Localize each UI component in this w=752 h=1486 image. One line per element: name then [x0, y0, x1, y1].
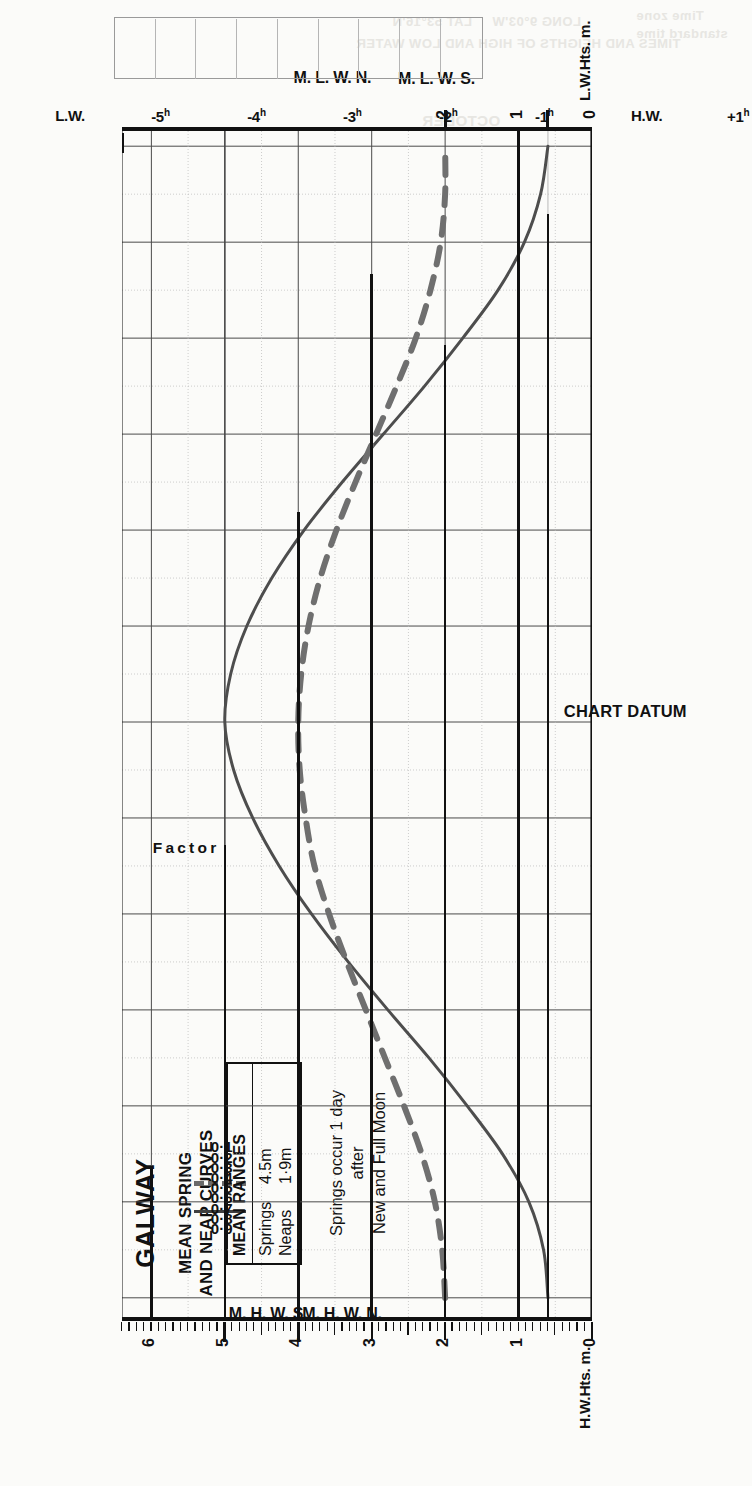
height-minor-tick — [532, 1322, 533, 1331]
height-tick-right: 1 — [508, 110, 526, 119]
height-minor-tick — [136, 1322, 137, 1331]
height-minor-tick — [584, 1322, 585, 1331]
hour-tick-label: L.W. — [55, 107, 85, 124]
right-axis-title: L.W.Hts. m. — [576, 21, 594, 101]
height-minor-tick — [319, 1322, 320, 1331]
height-minor-tick — [459, 1322, 460, 1331]
level-marker-rule — [224, 845, 227, 1321]
level-marker-tick — [444, 110, 447, 130]
height-minor-tick — [437, 1322, 438, 1331]
height-minor-tick — [261, 1322, 262, 1335]
height-minor-tick — [121, 1322, 122, 1331]
height-minor-tick — [547, 1322, 548, 1331]
height-minor-tick — [400, 1322, 401, 1331]
height-minor-tick — [488, 1322, 489, 1331]
plot-area — [122, 131, 592, 1321]
height-reference-rule — [150, 1166, 153, 1321]
height-minor-tick — [150, 1322, 151, 1331]
height-tick-right: 0 — [581, 110, 599, 119]
height-tick-left: 1 — [508, 1338, 526, 1347]
height-minor-tick — [407, 1322, 408, 1335]
height-minor-tick — [128, 1322, 129, 1331]
side-table-divider — [358, 19, 359, 79]
bleed-text: standard time — [636, 26, 728, 41]
height-minor-tick — [474, 1322, 475, 1331]
height-minor-tick — [591, 1322, 593, 1340]
height-minor-tick — [158, 1322, 159, 1331]
height-minor-tick — [312, 1322, 313, 1331]
level-marker-rule — [547, 214, 550, 1321]
level-marker-tick — [546, 110, 549, 130]
height-minor-tick — [187, 1322, 188, 1331]
level-marker-tick — [223, 1322, 226, 1342]
height-minor-tick — [341, 1322, 342, 1331]
height-minor-tick — [451, 1322, 452, 1331]
hour-tick-label: +1h — [727, 107, 749, 125]
height-minor-tick — [562, 1322, 563, 1331]
hour-tick-label: -5h — [151, 107, 170, 125]
bleed-text: Time zone — [636, 8, 704, 23]
height-minor-tick — [518, 1322, 519, 1331]
height-minor-tick — [143, 1322, 144, 1331]
height-minor-tick — [503, 1322, 504, 1331]
height-minor-tick — [172, 1322, 173, 1331]
height-minor-tick — [540, 1322, 541, 1331]
height-minor-tick — [429, 1322, 430, 1331]
height-minor-tick — [209, 1322, 210, 1331]
height-minor-tick — [180, 1322, 181, 1331]
level-marker-label: M. H. W. S. — [229, 1305, 308, 1323]
height-minor-tick — [327, 1322, 328, 1331]
side-table-divider — [318, 19, 319, 79]
factor-tick-label: 0·1 — [211, 1138, 233, 1155]
height-minor-tick — [349, 1322, 350, 1331]
height-minor-tick — [385, 1322, 386, 1331]
height-minor-tick — [466, 1322, 467, 1331]
height-minor-tick — [378, 1322, 379, 1331]
height-minor-tick — [165, 1322, 166, 1331]
height-tick-left: 2 — [434, 1338, 452, 1347]
height-tick-left: 0 — [581, 1338, 599, 1347]
side-table-divider — [277, 19, 278, 79]
side-table-divider — [399, 19, 400, 79]
height-minor-tick — [576, 1322, 577, 1331]
hour-minor-tick — [122, 133, 123, 142]
hour-axis-rail — [122, 127, 592, 131]
height-minor-tick — [283, 1322, 284, 1331]
height-minor-tick — [554, 1322, 555, 1335]
height-minor-tick — [239, 1322, 240, 1331]
hour-tick-label: H.W. — [631, 107, 662, 124]
height-minor-tick — [216, 1322, 217, 1331]
height-minor-tick — [393, 1322, 394, 1331]
height-minor-tick — [415, 1322, 416, 1331]
left-axis-title: H.W.Hts. m. — [576, 1347, 594, 1429]
plot-inner — [122, 131, 592, 1317]
side-table-divider — [195, 19, 196, 79]
height-minor-tick — [202, 1322, 203, 1331]
height-minor-tick — [481, 1322, 482, 1335]
side-table-divider — [440, 19, 441, 79]
height-minor-tick — [253, 1322, 254, 1331]
side-table-divider — [236, 19, 237, 79]
height-minor-tick — [268, 1322, 269, 1331]
height-minor-tick — [422, 1322, 423, 1331]
hour-tick-label: -1h — [535, 107, 554, 125]
height-minor-tick — [334, 1322, 335, 1335]
height-minor-tick — [290, 1322, 291, 1331]
height-minor-tick — [363, 1322, 364, 1331]
level-marker-tick — [297, 1322, 300, 1342]
tidal-curve-diagram-rotated: GALWAY MEAN SPRING AND NEAP CURVES MEAN … — [26, 53, 726, 1433]
height-minor-tick — [231, 1322, 232, 1331]
factor-axis-caption: Factor — [153, 839, 220, 857]
tidal-curve-diagram: GALWAY MEAN SPRING AND NEAP CURVES MEAN … — [26, 53, 726, 1433]
hour-tick-label: -2h — [439, 107, 458, 125]
height-minor-tick — [356, 1322, 357, 1331]
height-minor-tick — [275, 1322, 276, 1331]
height-minor-tick — [496, 1322, 497, 1331]
side-table-strip — [114, 17, 483, 79]
height-reference-rule — [370, 274, 373, 1321]
side-table-divider — [155, 19, 156, 79]
level-marker-rule — [297, 512, 300, 1321]
plot-grid-and-curves — [122, 127, 592, 1317]
hour-tick-label: -3h — [343, 107, 362, 125]
height-minor-tick — [444, 1322, 446, 1340]
